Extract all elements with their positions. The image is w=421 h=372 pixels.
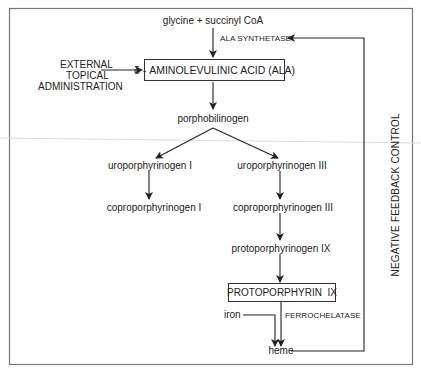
- enzyme-ala-synthetase: ALA SYNTHETASE: [220, 35, 291, 43]
- external-line-1: EXTERNAL: [38, 59, 123, 70]
- arrow-negative-feedback: [288, 38, 364, 351]
- node-protoporphyrin-ix-box: PROTOPORPHYRIN IX: [228, 283, 336, 302]
- external-line-3: ADMINISTRATION: [38, 81, 123, 92]
- negative-feedback-label: NEGATIVE FEEDBACK CONTROL: [390, 127, 401, 277]
- arrow-porphobilinogen-to-uro-i: [156, 128, 213, 158]
- node-coproporphyrinogen-i: coproporphyrinogen I: [107, 203, 202, 213]
- external-line-2: TOPICAL: [38, 70, 123, 81]
- enzyme-ferrochelatase: FERROCHELATASE: [285, 312, 361, 320]
- node-substrate: glycine + succinyl CoA: [163, 16, 263, 26]
- arrow-iron-to-heme: [243, 315, 275, 346]
- node-porphobilinogen: porphobilinogen: [177, 114, 248, 124]
- node-heme: heme: [268, 346, 293, 356]
- scan-artifact-line: [0, 138, 421, 143]
- node-iron: iron: [224, 310, 241, 320]
- node-coproporphyrinogen-iii: coproporphyrinogen III: [233, 203, 333, 213]
- node-uroporphyrinogen-i: uroporphyrinogen I: [108, 161, 192, 171]
- arrow-porphobilinogen-to-uro-iii: [213, 128, 278, 158]
- external-topical-administration: EXTERNAL TOPICAL ADMINISTRATION: [38, 59, 123, 92]
- node-uroporphyrinogen-iii: uroporphyrinogen III: [237, 161, 327, 171]
- node-protoporphyrinogen-ix: protoporphyrinogen IX: [232, 244, 331, 254]
- node-ala-box: δ - AMINOLEVULINIC ACID (ALA): [144, 59, 285, 81]
